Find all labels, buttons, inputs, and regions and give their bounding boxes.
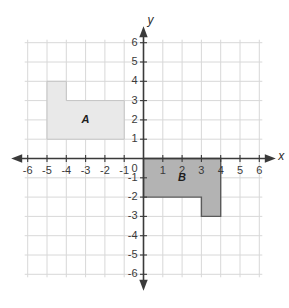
x-axis-arrow-right	[265, 154, 276, 162]
x-tick-label: -3	[81, 164, 91, 176]
x-tick-label: -4	[61, 164, 71, 176]
shape-label-b: B	[178, 171, 186, 183]
x-axis-arrow-left	[11, 154, 22, 162]
x-tick-label: 4	[218, 164, 224, 176]
origin-label: 0	[131, 162, 137, 174]
x-tick-label: 5	[237, 164, 243, 176]
y-tick-label: -2	[128, 190, 138, 202]
y-axis-arrow-down	[139, 280, 147, 291]
axes-layer	[11, 26, 276, 291]
y-tick-label: 2	[131, 113, 137, 125]
y-tick-label: -6	[128, 267, 138, 279]
y-tick-label: -3	[128, 209, 138, 221]
y-tick-label: 4	[131, 74, 137, 86]
y-axis-arrow-up	[139, 26, 147, 37]
tick-labels-layer: -6-5-4-3-2-1123456654321-1-2-3-4-5-60xyA…	[23, 13, 285, 279]
y-tick-label: 6	[131, 36, 137, 48]
x-axis-label: x	[277, 149, 285, 163]
coordinate-plane-figure: -6-5-4-3-2-1123456654321-1-2-3-4-5-60xyA…	[0, 0, 289, 308]
x-tick-label: -2	[100, 164, 110, 176]
y-axis-label: y	[147, 13, 155, 27]
x-tick-label: 3	[198, 164, 204, 176]
y-tick-label: 3	[131, 94, 137, 106]
y-tick-label: -4	[128, 229, 138, 241]
x-tick-label: 6	[256, 164, 262, 176]
y-tick-label: 1	[131, 132, 137, 144]
x-tick-label: 1	[160, 164, 166, 176]
coordinate-plane-svg: -6-5-4-3-2-1123456654321-1-2-3-4-5-60xyA…	[0, 0, 289, 308]
y-tick-label: 5	[131, 55, 137, 67]
x-tick-label: -5	[42, 164, 52, 176]
x-tick-label: -6	[23, 164, 33, 176]
y-tick-label: -5	[128, 248, 138, 260]
shape-label-a: A	[81, 113, 90, 125]
